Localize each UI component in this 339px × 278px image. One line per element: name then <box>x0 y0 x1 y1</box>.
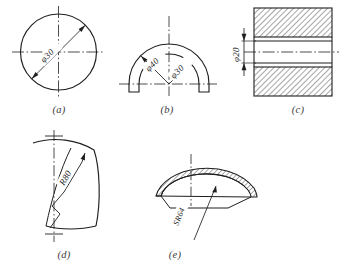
panel-e-drawing: SR64 <box>150 150 275 248</box>
leader-line-spherical-radius <box>194 186 216 240</box>
arrowhead-down <box>242 63 247 70</box>
dimension-label-diameter-20: φ20 <box>231 47 241 62</box>
panel-e-spherical-dome: SR64 <box>150 150 275 248</box>
panel-d-large-radius: R80 <box>30 124 160 248</box>
arrowhead-up <box>242 34 247 41</box>
caption-d: (d) <box>44 249 84 260</box>
arrowhead-spherical-radius <box>212 186 217 193</box>
panel-c-drawing: φ20 <box>222 0 339 104</box>
engineering-drawing-sheet: φ30 (a) φ40 <box>0 0 339 278</box>
dome-wall-section <box>156 168 257 197</box>
dimension-text-group-e: SR64 <box>169 199 190 229</box>
dimension-text-group-inner: φ30 <box>167 56 193 82</box>
plate-edge-top <box>33 139 94 150</box>
arrowhead-radius <box>81 153 85 160</box>
panel-b-semicircular-ring: φ40 φ30 <box>113 0 223 104</box>
foot-left <box>129 84 139 92</box>
caption-e: (e) <box>155 249 195 260</box>
plate-edge-bottom <box>46 226 96 229</box>
panel-c-section-bore: φ20 <box>222 0 339 104</box>
foot-right <box>199 84 209 92</box>
caption-c: (c) <box>278 104 318 115</box>
caption-b: (b) <box>147 104 187 115</box>
dimension-text-group-c: φ20 <box>231 38 242 64</box>
section-material-bottom <box>254 67 332 96</box>
dome-lower-edge <box>161 196 251 208</box>
dimension-text-group-outer: φ40 <box>142 49 168 75</box>
plate-edge-right <box>94 150 99 226</box>
panel-a-drawing: φ30 <box>0 0 118 104</box>
section-material-top <box>254 8 332 37</box>
caption-a: (a) <box>39 104 79 115</box>
dome-rim-line <box>156 196 251 197</box>
panel-d-drawing: R80 <box>30 124 160 248</box>
panel-b-drawing: φ40 φ30 <box>113 0 223 104</box>
panel-a-circle-diameter: φ30 <box>0 0 118 104</box>
